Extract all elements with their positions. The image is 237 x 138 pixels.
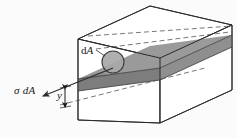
stress-force-label: σ dA bbox=[14, 85, 36, 96]
beam-stress-figure: σ dA dA y bbox=[0, 0, 237, 138]
area-element-circle bbox=[102, 51, 124, 73]
area-element-label: dA bbox=[81, 45, 93, 56]
distance-y-label: y bbox=[57, 90, 62, 101]
figure-canvas bbox=[0, 0, 237, 138]
area-element-label-A: A bbox=[87, 44, 94, 56]
